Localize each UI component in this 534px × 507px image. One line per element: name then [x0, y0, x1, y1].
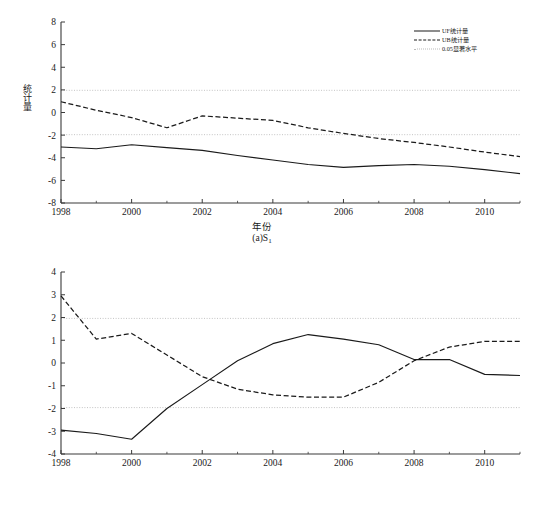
y-tick-label: -6 [48, 176, 56, 186]
y-tick-label: 6 [51, 40, 56, 50]
legend-a: UF统计量 UB统计量 0.05显著水平 [414, 26, 477, 53]
panel-caption-a: (a)S1 [0, 233, 529, 243]
legend-item-uf-a: UF统计量 [414, 26, 477, 35]
y-tick-label: 2 [51, 313, 56, 323]
x-tick-label: 1998 [52, 207, 71, 217]
line-chart-b: -4-3-2-101234199820002002200420062008201… [0, 254, 534, 507]
x-tick-label: 2004 [263, 207, 282, 217]
panel-caption-a-text: (a)S [252, 233, 268, 243]
y-tick-label: 1 [51, 336, 56, 346]
legend-key-dashed-line-icon [414, 36, 440, 44]
series-line-ub [61, 296, 520, 397]
chart-panel-a: -8-6-4-202468199820002002200420062008201… [0, 0, 534, 254]
x-tick-label: 2006 [334, 458, 353, 468]
chart-panel-b: -4-3-2-101234199820002002200420062008201… [0, 254, 534, 507]
x-tick-label: 2006 [334, 207, 353, 217]
x-tick-label: 2000 [122, 207, 141, 217]
y-tick-label: -3 [48, 427, 56, 437]
x-tick-label: 2004 [263, 458, 282, 468]
plot-area-b: -4-3-2-101234199820002002200420062008201… [0, 254, 534, 507]
series-line-uf [61, 335, 520, 440]
x-tick-label: 2002 [193, 207, 212, 217]
x-tick-label: 2002 [193, 458, 212, 468]
x-tick-label: 2008 [405, 207, 424, 217]
x-tick-label: 2010 [475, 207, 494, 217]
y-axis-label-a: 统计量 [22, 84, 31, 111]
x-tick-label: 2008 [405, 458, 424, 468]
panel-caption-a-sub: 1 [268, 237, 272, 245]
legend-item-ub-a: UB统计量 [414, 35, 477, 44]
y-tick-label: -4 [48, 153, 56, 163]
x-tick-label: 1998 [52, 458, 71, 468]
legend-item-sig-a: 0.05显著水平 [414, 44, 477, 53]
legend-key-dotted-line-icon [414, 45, 440, 53]
y-tick-label: -2 [48, 404, 56, 414]
x-tick-label: 2000 [122, 458, 141, 468]
y-tick-label: -1 [48, 381, 56, 391]
x-tick-label: 2010 [475, 458, 494, 468]
legend-label-sig-a: 0.05显著水平 [442, 44, 477, 54]
series-line-ub [61, 102, 520, 157]
series-line-uf [61, 145, 520, 174]
y-tick-label: 4 [51, 63, 56, 73]
y-tick-label: 0 [51, 358, 56, 368]
legend-key-solid-line-icon [414, 27, 440, 35]
y-tick-label: 0 [51, 108, 56, 118]
y-tick-label: 2 [51, 85, 56, 95]
y-tick-label: -2 [48, 131, 56, 141]
x-axis-label-a: 年份 [0, 219, 529, 233]
y-tick-label: 3 [51, 290, 56, 300]
y-tick-label: 4 [51, 267, 56, 277]
y-tick-label: 8 [51, 17, 56, 27]
